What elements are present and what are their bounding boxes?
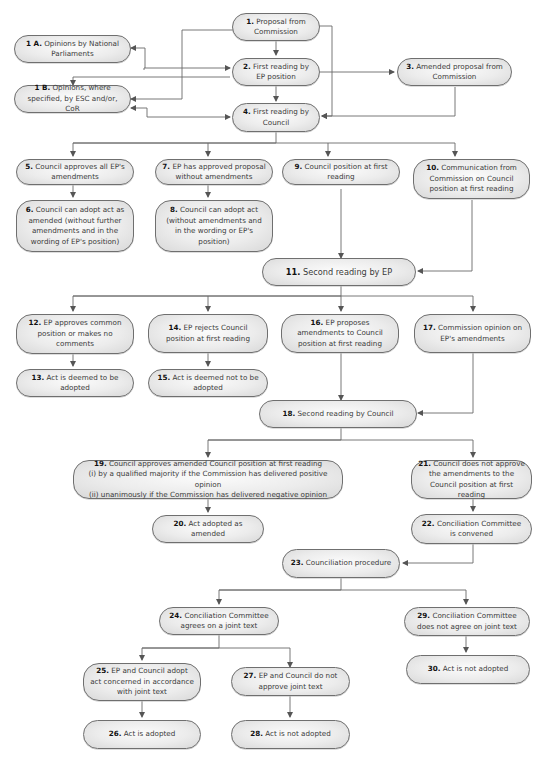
node-number: 14. [168, 323, 181, 332]
node-label: First reading by Council [253, 107, 309, 127]
node-label: First reading by EP position [253, 62, 309, 82]
node-28-act-not-adopted: 28. Act is not adopted [231, 720, 350, 749]
node-number: 28. [250, 729, 263, 738]
node-23-conciliation-procedure: 23. Counciliation procedure [282, 549, 400, 578]
node-number: 7. [162, 162, 170, 171]
node-29-committee-no-agreement: 29. Conciliation Committee does not agre… [404, 607, 530, 636]
node-17-commission-opinion: 17. Commission opinion on EP's amendment… [414, 314, 531, 353]
node-11-second-reading-ep: 11. Second reading by EP [262, 258, 416, 286]
node-number: 5. [25, 162, 33, 171]
node-4-first-reading-council: 4. First reading by Council [232, 103, 320, 132]
node-label: Commission opinion on EP's amendments [438, 323, 522, 343]
node-number: 18. [283, 409, 296, 418]
node-3-amended-proposal: 3. Amended proposal from Commission [397, 58, 512, 86]
node-number: 26. [109, 729, 122, 738]
node-number: 12. [29, 318, 42, 327]
node-number: 15. [157, 373, 170, 382]
node-number: 8. [170, 205, 178, 214]
node-number: 16. [311, 318, 324, 327]
node-label: Act is not adopted [443, 664, 509, 673]
node-18-second-reading-council: 18. Second reading by Council [259, 400, 417, 428]
node-number: 1 B. [34, 83, 50, 92]
node-number: 1 A. [26, 39, 42, 48]
node-label: Counciliation procedure [306, 558, 391, 567]
node-label: Council does not approve the amendments … [429, 459, 525, 500]
node-label: Amended proposal from Commission [416, 62, 503, 82]
node-number: 30. [428, 664, 441, 673]
node-number: 21. [418, 459, 431, 468]
node-label: Opinions by National Parliaments [44, 39, 119, 59]
node-20-act-adopted-as-amended: 20. Act adopted as amended [152, 515, 264, 543]
node-number: 1. [246, 17, 254, 26]
node-number: 23. [291, 558, 304, 567]
node-22-conciliation-committee-convened: 22. Conciliation Committee is convened [411, 514, 532, 544]
node-label: Council can adopt act as amended (withou… [28, 205, 124, 246]
node-number: 3. [406, 62, 414, 71]
node-label: Act is not adopted [265, 729, 331, 738]
node-label: Council position at first reading [304, 162, 387, 182]
node-1a-national-parliaments: 1 A. Opinions by National Parliaments [14, 35, 131, 63]
node-25-ep-council-adopt-act: 25. EP and Council adopt act concerned i… [83, 663, 201, 701]
node-label: Council approves amended Council positio… [109, 459, 322, 468]
node-1-proposal-from-commission: 1. Proposal from Commission [232, 13, 320, 41]
node-8-council-adopt-act: 8. Council can adopt act (without amendm… [155, 200, 273, 252]
node-label: Proposal from Commission [254, 17, 306, 37]
node-label: EP and Council do not approve joint text [259, 671, 338, 691]
node-label: Conciliation Committee does not agree on… [417, 611, 517, 631]
node-label: Act is deemed not to be adopted [172, 373, 258, 393]
node-9-council-position: 9. Council position at first reading [282, 159, 400, 185]
node-number: 6. [26, 205, 34, 214]
node-7-ep-approved-without-amendments: 7. EP has approved proposal without amen… [155, 159, 273, 185]
node-number: 19. [94, 459, 107, 468]
node-number: 11. [286, 267, 301, 277]
node-6-council-adopt-as-amended: 6. Council can adopt act as amended (wit… [16, 200, 134, 252]
node-number: 22. [422, 519, 435, 528]
node-label: Act is adopted [124, 729, 176, 738]
node-label: Conciliation Committee is convened [437, 519, 521, 539]
node-number: 20. [173, 519, 186, 528]
node-number: 25. [96, 666, 109, 675]
node-27-ep-council-do-not-approve: 27. EP and Council do not approve joint … [231, 667, 350, 696]
node-12-ep-approves-common-position: 12. EP approves common position or makes… [16, 314, 134, 354]
node-number: 10. [426, 163, 439, 172]
node-19-condition-i: (i) by a qualified majority if the Commi… [80, 469, 336, 490]
node-number: 2. [243, 62, 251, 71]
node-label: Conciliation Committee agrees on a joint… [181, 611, 269, 631]
node-number: 4. [243, 107, 251, 116]
node-2-first-reading-ep: 2. First reading by EP position [232, 58, 320, 86]
node-number: 9. [294, 162, 302, 171]
node-10-commission-communication: 10. Communication from Commission on Cou… [413, 159, 530, 199]
node-19-council-approves-amended-position: 19. Council approves amended Council pos… [73, 460, 343, 499]
node-label: EP has approved proposal without amendme… [172, 162, 265, 182]
node-26-act-adopted: 26. Act is adopted [83, 720, 201, 749]
node-15-act-deemed-not-adopted: 15. Act is deemed not to be adopted [148, 369, 268, 397]
node-label: Council approves all EP's amendments [35, 162, 124, 182]
node-label: Council can adopt act (without amendment… [166, 205, 261, 246]
node-label: Act adopted as amended [189, 519, 243, 539]
node-30-act-not-adopted: 30. Act is not adopted [406, 655, 530, 684]
node-number: 17. [423, 323, 436, 332]
node-label: EP approves common position or makes no … [37, 318, 121, 348]
node-13-act-deemed-adopted: 13. Act is deemed to be adopted [16, 369, 134, 397]
node-label: Act is deemed to be adopted [46, 373, 118, 393]
node-21-council-does-not-approve: 21. Council does not approve the amendme… [411, 460, 532, 499]
node-label: Communication from Commission on Council… [430, 163, 517, 193]
node-label: Second reading by Council [298, 409, 394, 418]
node-14-ep-rejects-council-position: 14. EP rejects Council position at first… [148, 314, 268, 353]
node-24-committee-agrees-joint-text: 24. Conciliation Committee agrees on a j… [159, 607, 279, 635]
node-number: 29. [417, 611, 430, 620]
node-16-ep-proposes-amendments: 16. EP proposes amendments to Council po… [281, 314, 399, 353]
node-label: Second reading by EP [303, 267, 392, 277]
node-number: 27. [244, 671, 257, 680]
node-number: 24. [169, 611, 182, 620]
node-1b-esc-cor-opinions: 1 B. Opinions, where specified, by ESC a… [14, 85, 131, 113]
node-number: 13. [31, 373, 44, 382]
node-5-council-approves-amendments: 5. Council approves all EP's amendments [16, 159, 134, 185]
node-19-condition-ii: (ii) unanimously if the Commission has d… [80, 490, 336, 501]
